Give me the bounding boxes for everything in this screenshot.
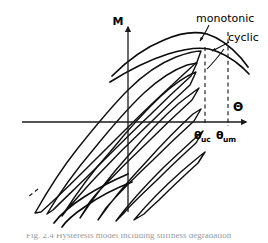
axes bbox=[22, 27, 246, 212]
x-axis-label: Θ bbox=[233, 100, 243, 114]
figure-container: M Θ monotonic cyclic θ uc θ um Fig. 2.4 … bbox=[0, 0, 268, 243]
annotation-leaders bbox=[200, 25, 229, 69]
figure-caption: Fig. 2.4 Hysteresis model including stif… bbox=[26, 234, 231, 240]
caption-strip: Fig. 2.4 Hysteresis model including stif… bbox=[0, 234, 268, 243]
loop-6 bbox=[116, 131, 203, 221]
cyclic-label: cyclic bbox=[228, 31, 259, 44]
y-axis-label: M bbox=[113, 15, 124, 28]
cyclic-leader bbox=[212, 42, 229, 51]
monotonic-label: monotonic bbox=[196, 12, 254, 25]
hysteresis-diagram: M Θ monotonic cyclic θ uc θ um bbox=[0, 0, 268, 243]
tick-label-theta-um: θ um bbox=[216, 129, 236, 144]
guide-lower-tail bbox=[28, 189, 38, 197]
theta-um-subscript: um bbox=[223, 135, 236, 144]
theta-uc-subscript: uc bbox=[201, 135, 211, 144]
cyclic-drop-leader bbox=[207, 49, 224, 69]
